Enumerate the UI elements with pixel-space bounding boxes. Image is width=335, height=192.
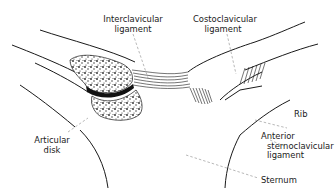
- interclavicular-ligament: [132, 70, 190, 88]
- rib-outline: [220, 72, 262, 100]
- clavicle-sternal-end: [70, 55, 132, 92]
- label-line: Rib: [294, 110, 307, 120]
- label-rib: Rib: [294, 110, 307, 120]
- label-interclavicular-ligament: Interclavicular ligament: [103, 15, 163, 34]
- label-line: Sternum: [261, 176, 297, 186]
- label-costoclavicular-ligament: Costoclavicular ligament: [193, 15, 253, 34]
- label-line: ligament: [193, 25, 253, 35]
- label-anterior-sternoclavicular-ligament: Anterior sternoclavicular ligament: [261, 132, 334, 161]
- label-articular-disk: Articular disk: [32, 136, 72, 155]
- label-sternum: Sternum: [261, 176, 297, 186]
- label-line: ligament: [261, 151, 334, 161]
- sternoclavicular-joint-diagram: [0, 0, 335, 192]
- label-line: ligament: [103, 25, 163, 35]
- label-line: disk: [32, 146, 72, 156]
